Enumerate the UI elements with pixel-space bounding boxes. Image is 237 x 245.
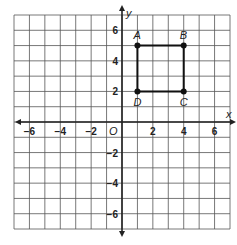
- x-tick-label: −6: [24, 126, 36, 137]
- coordinate-plane: xyO −6−4−2246642−2−4−6 ABCD: [0, 0, 237, 245]
- y-tick-label: 6: [112, 25, 118, 36]
- y-tick-label: 2: [112, 86, 118, 97]
- x-tick-label: 6: [212, 126, 218, 137]
- point-a: [134, 43, 140, 49]
- axes: xyO: [15, 5, 236, 237]
- x-tick-label: −2: [85, 126, 97, 137]
- y-axis-down-arrow-icon: [119, 231, 125, 237]
- point-label-c: C: [180, 96, 188, 108]
- point-c: [181, 88, 187, 94]
- point-label-a: A: [132, 29, 140, 41]
- y-axis-up-arrow-icon: [119, 5, 125, 11]
- y-tick-label: 4: [112, 56, 118, 67]
- x-axis-label: x: [225, 108, 232, 120]
- square-outline: [137, 46, 183, 92]
- y-axis-label: y: [125, 7, 133, 19]
- x-axis-left-arrow-icon: [15, 119, 21, 125]
- origin-label: O: [109, 125, 118, 137]
- y-tick-label: −2: [107, 148, 119, 159]
- y-tick-label: −6: [107, 209, 119, 220]
- point-labels: ABCD: [132, 29, 187, 109]
- point-label-d: D: [133, 96, 141, 108]
- point-label-b: B: [180, 29, 187, 41]
- point-d: [134, 88, 140, 94]
- point-b: [181, 43, 187, 49]
- square-abcd: [134, 43, 186, 95]
- y-tick-label: −4: [107, 178, 119, 189]
- x-tick-label: −4: [55, 126, 67, 137]
- x-tick-label: 4: [181, 126, 187, 137]
- x-tick-label: 2: [150, 126, 156, 137]
